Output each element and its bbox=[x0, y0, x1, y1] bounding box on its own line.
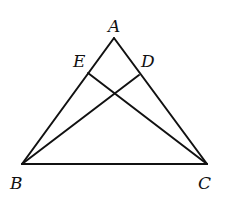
label-d: D bbox=[140, 51, 155, 71]
triangle-diagram: A E D B C bbox=[0, 0, 232, 199]
label-e: E bbox=[72, 51, 86, 71]
label-a: A bbox=[106, 16, 120, 36]
label-c: C bbox=[198, 173, 211, 193]
segment-bd bbox=[22, 75, 139, 164]
segment-ac bbox=[114, 38, 207, 164]
segment-ce bbox=[88, 73, 207, 164]
segment-ab bbox=[22, 38, 114, 164]
label-b: B bbox=[9, 173, 23, 193]
